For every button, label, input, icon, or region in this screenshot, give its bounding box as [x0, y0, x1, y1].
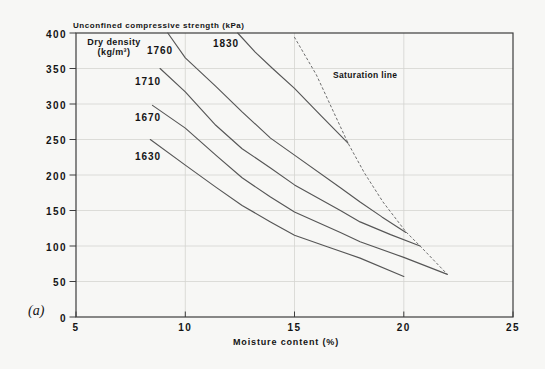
x-tick-label: 20 [397, 322, 411, 333]
x-axis-label: Moisture content (%) [227, 337, 345, 347]
saturation-line-label: Saturation line [333, 70, 397, 80]
y-tick-label: 300 [46, 100, 67, 111]
figure-panel-a: 050100150200250300350400510152025 Unconf… [0, 0, 545, 369]
series-line-1760 [168, 33, 406, 233]
y-tick-label: 100 [46, 242, 67, 253]
panel-letter-label: (a) [28, 303, 44, 319]
x-tick-label: 15 [288, 322, 302, 333]
curve-label-1670: 1670 [135, 112, 161, 123]
legend-title-line2: (kg/m³) [80, 47, 148, 57]
legend-title-line1: Dry density [80, 37, 148, 47]
chart-title: Unconfined compressive strength (kPa) [73, 21, 245, 30]
series-line-1710 [160, 69, 420, 247]
series-line-1830 [238, 33, 348, 143]
series-line-1670 [153, 105, 448, 274]
y-tick-label: 50 [53, 277, 67, 288]
y-tick-label: 150 [46, 206, 67, 217]
y-tick-label: 250 [46, 135, 67, 146]
curve-label-1760: 1760 [147, 45, 173, 56]
curve-label-1710: 1710 [135, 76, 161, 87]
y-tick-label: 0 [60, 313, 67, 324]
legend-dry-density: Dry density (kg/m³) [80, 37, 148, 57]
y-tick-label: 350 [46, 64, 67, 75]
x-tick-label: 5 [73, 322, 80, 333]
curve-label-1830: 1830 [213, 38, 239, 49]
curve-label-1630: 1630 [135, 151, 161, 162]
y-tick-label: 400 [46, 29, 67, 40]
x-tick-label: 10 [178, 322, 192, 333]
x-tick-label: 25 [506, 322, 520, 333]
series-line-1630 [150, 140, 403, 277]
y-tick-label: 200 [46, 171, 67, 182]
